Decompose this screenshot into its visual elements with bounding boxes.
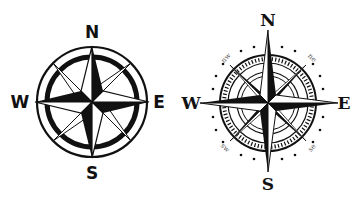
label-southeast: se xyxy=(306,142,317,153)
cardinal-points xyxy=(200,30,338,172)
label-north: N xyxy=(260,10,276,30)
label-southwest: sw xyxy=(219,142,231,154)
compass-rose-right: N E S W nw ne sw se xyxy=(180,10,350,194)
label-south: S xyxy=(86,163,98,183)
label-east: E xyxy=(338,93,351,113)
label-east: E xyxy=(153,92,165,112)
label-northeast: ne xyxy=(306,52,318,64)
label-north: N xyxy=(85,22,99,42)
label-west: W xyxy=(11,92,30,112)
compass-rose-left: N E S W xyxy=(11,22,165,183)
label-west: W xyxy=(180,93,201,113)
label-northwest: nw xyxy=(219,51,232,64)
label-south: S xyxy=(262,174,274,194)
